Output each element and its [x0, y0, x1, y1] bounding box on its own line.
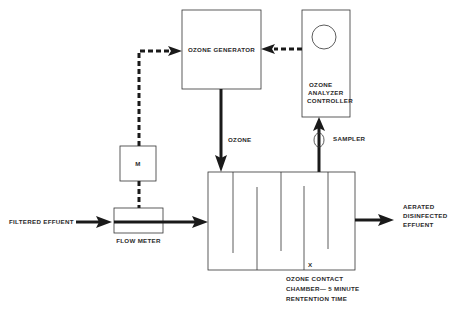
contact-chamber: X OZONE CONTACT CHAMBER— 5 MINUTE RENTEN…	[208, 172, 360, 302]
analyzer-label-1: OZONE	[309, 81, 333, 88]
flow-meter-label: FLOW METER	[116, 237, 161, 244]
analyzer-label-2: ANALYZER	[308, 89, 344, 96]
chamber-label-2: CHAMBER— 5 MINUTE	[286, 285, 360, 292]
outlet-label-3: EFFUENT	[403, 221, 434, 228]
analyzer-label-3: CONTROLLER	[307, 97, 353, 104]
outlet-label-1: AERATED	[403, 203, 435, 210]
ozone-generator-box: OZONE GENERATOR	[182, 10, 261, 89]
analyzer-box: OZONE ANALYZER CONTROLLER	[302, 10, 353, 117]
gauge-icon	[312, 25, 336, 49]
ozone-generator-label: OZONE GENERATOR	[188, 46, 255, 53]
inlet-label: FILTERED EFFUENT	[9, 218, 74, 225]
meter-signal-arrow	[139, 46, 182, 146]
outlet-arrow: AERATED DISINFECTED EFFUENT	[355, 203, 448, 228]
meter-m-box: M	[120, 146, 156, 181]
ozone-label: OZONE	[228, 136, 252, 143]
flow-meter-box: FLOW METER	[114, 208, 163, 244]
ozone-disinfection-diagram: OZONE GENERATOR OZONE ANALYZER CONTROLLE…	[0, 0, 452, 309]
sampler-arrow: SAMPLER	[313, 117, 366, 172]
ozone-arrow: OZONE	[215, 89, 252, 172]
chamber-label-1: OZONE CONTACT	[286, 275, 343, 282]
outlet-label-2: DISINFECTED	[403, 212, 448, 219]
sampler-label: SAMPLER	[333, 135, 366, 142]
inlet-arrow: FILTERED EFFUENT	[9, 216, 208, 228]
meter-m-label: M	[135, 160, 140, 167]
control-signal-arrow	[261, 44, 302, 54]
chamber-label-3: RENTENTION TIME	[286, 295, 347, 302]
chamber-marker: X	[308, 261, 313, 268]
